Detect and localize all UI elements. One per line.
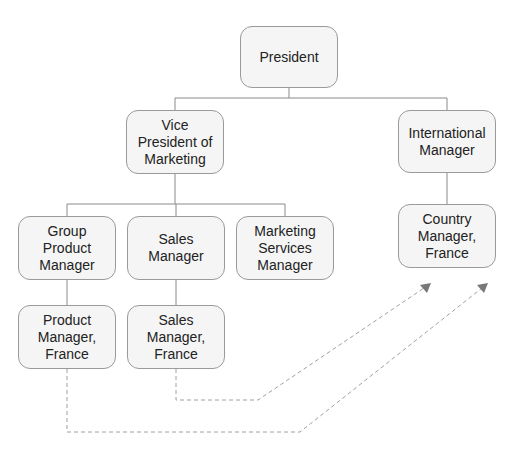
- node-sales-manager-france: Sales Manager, France: [127, 305, 225, 369]
- node-product-manager-france: Product Manager, France: [18, 305, 116, 369]
- org-chart: President Vice President of Marketing In…: [0, 0, 516, 451]
- node-vp-marketing: Vice President of Marketing: [126, 110, 224, 174]
- node-sales-manager: Sales Manager: [127, 216, 225, 280]
- node-country-manager-france: Country Manager, France: [398, 204, 496, 268]
- node-international-manager: International Manager: [398, 110, 496, 173]
- node-group-product-manager: Group Product Manager: [18, 216, 116, 280]
- node-president: President: [240, 26, 338, 88]
- node-marketing-services-manager: Marketing Services Manager: [236, 216, 334, 280]
